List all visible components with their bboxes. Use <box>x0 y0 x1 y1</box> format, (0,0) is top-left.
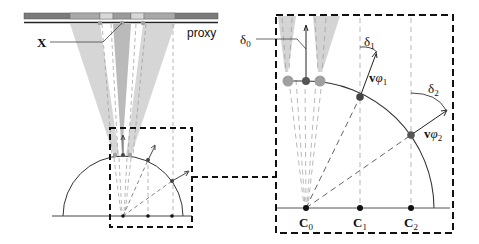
cone-dot <box>128 153 132 157</box>
cone-right <box>313 16 340 72</box>
v-phi2-label: vφ2 <box>424 127 442 143</box>
v-phi1-sub: 1 <box>383 77 388 87</box>
c0-symbol: C <box>299 215 308 230</box>
v-phi1-dot <box>146 158 150 162</box>
delta2-label: δ2 <box>428 82 439 98</box>
center-dot <box>121 153 125 157</box>
v-phi1-greek: φ <box>376 70 383 85</box>
c0-dot <box>121 214 125 218</box>
c1-symbol: C <box>353 215 362 230</box>
cone-dot-large <box>315 76 326 87</box>
proxy-label: proxy <box>187 27 216 39</box>
v-phi2-dot <box>170 179 174 183</box>
c2-point <box>408 205 414 211</box>
right-dashed-projections <box>282 18 411 208</box>
cone-dot <box>113 153 117 157</box>
v-phi2-sub: 2 <box>438 133 443 143</box>
cone-dot-large <box>283 76 294 87</box>
center-dot-large <box>302 77 310 85</box>
c2-label: C2 <box>404 216 418 232</box>
right-panel <box>256 15 453 233</box>
c1-label: C1 <box>353 216 367 232</box>
delta0-sub: 0 <box>246 39 251 49</box>
proxy-dot <box>98 21 103 26</box>
c0-label: C0 <box>299 216 313 232</box>
left-radial-lines <box>123 160 172 216</box>
left-panel <box>24 13 218 227</box>
v-phi2-dot <box>407 131 415 139</box>
c2-dot <box>170 214 174 218</box>
v-phi2-arrowhead <box>441 110 447 116</box>
v-phi1-dot <box>356 93 364 101</box>
v-phi1-label: vφ1 <box>369 71 387 87</box>
delta2-sub: 2 <box>434 88 439 98</box>
c1-sub: 1 <box>362 222 367 232</box>
delta0-label: δ0 <box>240 33 251 49</box>
delta0-leader <box>256 39 306 49</box>
v-phi2-greek: φ <box>431 126 438 141</box>
c2-sub: 2 <box>413 222 418 232</box>
delta1-sub: 1 <box>370 41 375 51</box>
c1-dot <box>146 214 150 218</box>
cone-left <box>278 16 296 72</box>
diagram-canvas: proxy X δ0 δ1 δ2 vφ1 vφ2 C0 C1 C2 <box>0 0 479 244</box>
c2-symbol: C <box>404 215 413 230</box>
right-radial-lines <box>306 97 411 208</box>
c0-sub: 0 <box>308 222 313 232</box>
c1-point <box>357 205 363 211</box>
proxy-dot <box>141 21 146 26</box>
c0-point <box>303 205 309 211</box>
delta1-label: δ1 <box>364 35 375 51</box>
x-label: X <box>37 36 46 49</box>
